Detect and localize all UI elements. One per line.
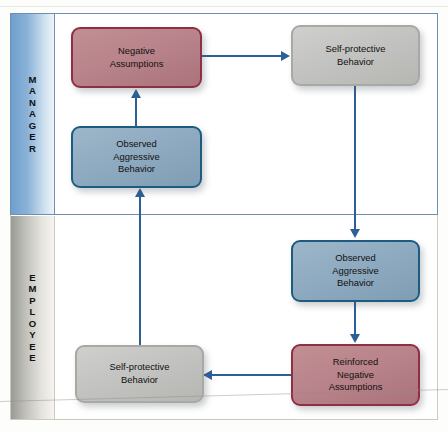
node-negative-assumptions[interactable]: NegativeAssumptions xyxy=(71,27,202,88)
manager-letter-2: N xyxy=(29,98,36,108)
arrowhead-up-icon xyxy=(135,188,145,197)
swimlane-label-employee: E M P L O Y E E xyxy=(11,216,55,419)
manager-letter-5: E xyxy=(29,132,36,142)
employee-letter-1: M xyxy=(28,284,36,294)
node-employee-self-protective-behavior[interactable]: Self-protectiveBehavior xyxy=(75,345,204,403)
node-employee-observed-aggressive-behavior[interactable]: ObservedAggressiveBehavior xyxy=(291,240,420,302)
manager-letter-4: G xyxy=(29,121,37,131)
edge-self-protective-to-observed-aggressive xyxy=(354,86,356,231)
node-reinforced-negative-assumptions-label: ReinforcedNegativeAssumptions xyxy=(323,356,389,394)
employee-letter-6: E xyxy=(29,342,36,352)
edge-reinforced-negative-to-self-protective xyxy=(204,374,292,376)
arrowhead-down-icon xyxy=(350,229,360,238)
employee-letter-7: E xyxy=(29,353,36,363)
node-employee-observed-aggressive-behavior-label: ObservedAggressiveBehavior xyxy=(326,252,384,290)
manager-letter-0: M xyxy=(28,75,36,85)
edge-self-protective-to-manager-observed xyxy=(139,196,141,345)
edge-negative-assumptions-to-self-protective xyxy=(202,55,282,57)
edge-manager-observed-to-negative-assumptions xyxy=(135,97,137,126)
employee-letter-4: O xyxy=(29,319,37,329)
employee-letter-5: Y xyxy=(29,330,36,340)
diagram-canvas: M A N A G E R E M P L O Y E E NegativeAs… xyxy=(0,0,448,433)
arrowhead-right-icon xyxy=(281,51,290,61)
edge-observed-aggressive-to-reinforced-negative xyxy=(354,302,356,336)
node-negative-assumptions-label: NegativeAssumptions xyxy=(104,45,170,70)
scan-artifact-top-line xyxy=(0,6,448,7)
swimlane-label-manager: M A N A G E R xyxy=(11,14,55,214)
employee-letter-2: P xyxy=(29,296,36,306)
employee-letter-0: E xyxy=(29,273,36,283)
manager-letter-6: R xyxy=(29,144,36,154)
employee-letter-3: L xyxy=(29,307,35,317)
node-manager-observed-aggressive-behavior-label: ObservedAggressiveBehavior xyxy=(107,138,165,176)
node-manager-observed-aggressive-behavior[interactable]: ObservedAggressiveBehavior xyxy=(71,126,202,188)
node-reinforced-negative-assumptions[interactable]: ReinforcedNegativeAssumptions xyxy=(291,344,420,406)
node-manager-self-protective-behavior[interactable]: Self-protectiveBehavior xyxy=(291,25,420,86)
node-manager-self-protective-behavior-label: Self-protectiveBehavior xyxy=(320,43,392,68)
manager-letter-1: A xyxy=(29,86,36,96)
node-employee-self-protective-behavior-label: Self-protectiveBehavior xyxy=(104,361,176,386)
arrowhead-left-icon xyxy=(203,370,212,380)
arrowhead-up-icon xyxy=(131,89,141,98)
arrowhead-down-icon xyxy=(350,334,360,343)
manager-letter-3: A xyxy=(29,109,36,119)
